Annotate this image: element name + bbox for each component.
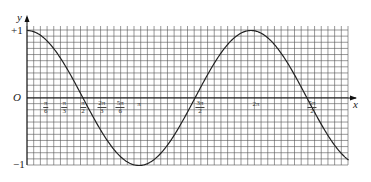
x-tick-label: π2 (80, 100, 86, 115)
axes (25, 15, 358, 165)
x-tick-label: 2π3 (97, 100, 106, 115)
y-tick-minus-one: −1 (13, 159, 25, 170)
x-tick-label: 5π6 (116, 100, 125, 115)
y-tick-plus-one: +1 (11, 25, 23, 36)
x-tick-label: π3 (62, 100, 68, 115)
y-axis-label: y (17, 12, 22, 23)
origin-label: O (13, 92, 21, 103)
x-tick-label: 3π2 (195, 100, 204, 115)
x-tick-label: π6 (43, 100, 49, 115)
x-tick-label: 5π2 (307, 100, 316, 115)
x-tick-label: 2π (251, 101, 260, 108)
cosine-chart (0, 0, 371, 182)
x-axis-label: x (353, 99, 358, 110)
grid (27, 26, 348, 165)
x-tick-label: π (136, 101, 142, 108)
